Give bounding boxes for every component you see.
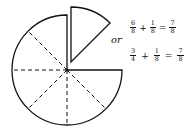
equation-eighths: 68 + 18 = 78	[130, 20, 176, 35]
plus-sign: +	[139, 23, 147, 33]
fraction: 18	[154, 48, 160, 63]
plus-sign: +	[141, 51, 149, 61]
eighth-dividers	[12, 31, 106, 125]
fraction: 34	[130, 48, 136, 63]
equals-sign: =	[165, 51, 173, 61]
fraction: 78	[169, 20, 175, 35]
equation-quarters: 34 + 18 = 78	[130, 48, 184, 63]
detached-eighth-slice	[71, 7, 110, 62]
fraction: 18	[150, 20, 156, 35]
center-point	[66, 69, 69, 72]
fraction: 68	[130, 20, 136, 35]
fraction: 78	[177, 48, 183, 63]
or-connector: or	[111, 34, 122, 45]
equals-sign: =	[159, 23, 167, 33]
